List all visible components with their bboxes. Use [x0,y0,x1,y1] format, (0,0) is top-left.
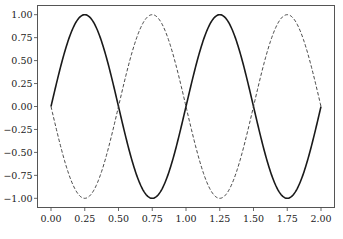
x-tick-label: 0.50 [108,213,129,224]
x-tick-label: 0.75 [142,213,163,224]
x-tick-label: 1.75 [277,213,298,224]
y-tick-label: −0.50 [3,147,32,158]
y-tick-label: 1.00 [11,9,32,20]
y-tick-label: 0.50 [11,55,32,66]
series-layer [51,15,321,199]
y-tick-label: 0.25 [11,78,32,89]
x-tick-label: 0.25 [74,213,95,224]
x-tick-label: 1.25 [209,213,230,224]
y-tick-label: −0.25 [3,124,32,135]
y-tick-label: 0.00 [11,101,32,112]
y-tick-label: 0.75 [11,32,32,43]
line-chart: 0.000.250.500.751.001.251.501.752.00 1.0… [0,0,343,239]
x-tick-label: 1.50 [243,213,264,224]
series-line-solid [51,15,321,199]
y-tick-label: −0.75 [3,170,32,181]
y-tick-label: −1.00 [3,193,32,204]
x-tick-label: 0.00 [40,213,61,224]
x-tick-label: 2.00 [310,213,331,224]
x-tick-label: 1.00 [175,213,196,224]
x-axis: 0.000.250.500.751.001.251.501.752.00 [40,208,331,224]
y-axis: 1.000.750.500.250.00−0.25−0.50−0.75−1.00 [3,9,37,204]
